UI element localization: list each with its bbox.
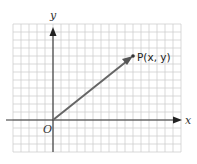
point-p <box>131 54 135 58</box>
coordinate-diagram: P(x, y) x y O <box>0 0 197 164</box>
position-vector <box>53 61 127 120</box>
grid <box>13 24 181 152</box>
point-label: P(x, y) <box>137 51 171 63</box>
y-axis-label: y <box>49 9 57 22</box>
origin-label: O <box>43 123 52 136</box>
y-axis-arrow-icon <box>50 27 57 36</box>
x-axis-label: x <box>185 114 192 127</box>
